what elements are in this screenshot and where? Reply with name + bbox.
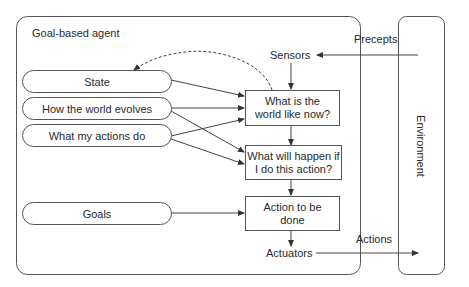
action-line2: done <box>263 214 321 227</box>
environment-label: Environment <box>415 111 427 181</box>
state-label: State <box>84 76 110 88</box>
goal-based-agent-diagram: Goal-based agent State How the world evo… <box>0 0 469 287</box>
goals-label: Goals <box>83 208 112 220</box>
world-now-box: What is the world like now? <box>245 90 340 126</box>
world-now-line2: world like now? <box>255 108 330 121</box>
actions-do-label: What my actions do <box>49 130 146 142</box>
action-line1: Action to be <box>263 201 321 214</box>
precepts-label: Precepts <box>354 33 397 46</box>
world-now-line1: What is the <box>255 95 330 108</box>
agent-title: Goal-based agent <box>32 27 119 40</box>
goals-node: Goals <box>22 202 172 225</box>
actuators-label: Actuators <box>266 247 312 260</box>
actions-do-node: What my actions do <box>22 124 172 147</box>
action-box: Action to be done <box>245 196 340 231</box>
what-if-line1: What will happen if <box>247 150 339 163</box>
world-evolves-node: How the world evolves <box>22 97 172 120</box>
what-if-line2: I do this action? <box>247 163 339 176</box>
world-evolves-label: How the world evolves <box>42 103 152 115</box>
actions-label: Actions <box>356 233 392 246</box>
state-node: State <box>22 70 172 93</box>
sensors-label: Sensors <box>270 49 310 62</box>
what-if-box: What will happen if I do this action? <box>245 145 342 180</box>
